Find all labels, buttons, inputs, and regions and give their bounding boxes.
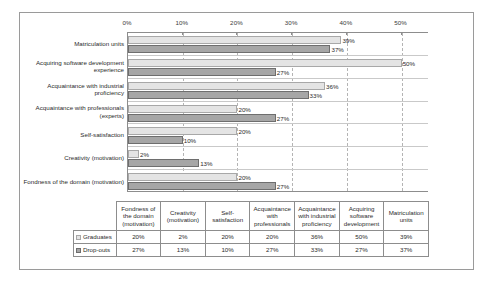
legend-item-graduates[interactable]: Graduates <box>74 231 117 244</box>
bar-graduates: 50% <box>128 59 402 67</box>
bar-value-label: 36% <box>326 82 338 89</box>
table-cell: 20% <box>116 231 161 244</box>
bar-chart: 0%10%20%30%40%50% Matriculation units39%… <box>20 13 475 199</box>
chart-category-row: Acquiring software development experienc… <box>128 56 428 79</box>
bar-value-label: 33% <box>310 91 322 98</box>
bar-drop-outs: 10% <box>128 136 183 144</box>
legend-swatch-icon <box>76 248 81 253</box>
bar-drop-outs: 27% <box>128 114 276 122</box>
bar-value-label: 10% <box>184 137 196 144</box>
bar-drop-outs: 27% <box>128 182 276 190</box>
x-axis-tick-label: 30% <box>285 19 298 26</box>
table-column-header: Acquiring software development <box>339 202 384 231</box>
category-label: Acquaintance with professionals (experts… <box>20 105 128 120</box>
table-row: Graduates20%2%20%20%36%50%39% <box>74 231 429 244</box>
x-axis-tick-label: 40% <box>340 19 353 26</box>
table-cell: 20% <box>205 231 250 244</box>
figure-frame: 0%10%20%30%40%50% Matriculation units39%… <box>19 12 474 270</box>
x-axis-tick-mark <box>346 32 347 35</box>
chart-category-row: Creativity (motivation)2%13% <box>128 147 428 170</box>
table-column-header: Matriculation units <box>384 202 429 231</box>
x-axis-tick-mark <box>236 32 237 35</box>
category-label: Acquaintance with industrial proficiency <box>20 82 128 97</box>
bar-value-label: 27% <box>277 114 289 121</box>
bar-drop-outs: 37% <box>128 45 330 53</box>
data-table: Fondness of the domain (motivation)Creat… <box>73 201 429 257</box>
bar-drop-outs: 13% <box>128 159 199 167</box>
bar-graduates: 20% <box>128 127 237 135</box>
table-header-row: Fondness of the domain (motivation)Creat… <box>74 202 429 231</box>
table-cell: 27% <box>339 244 384 257</box>
bar-graduates: 36% <box>128 82 325 90</box>
bar-drop-outs: 27% <box>128 68 276 76</box>
table-cell: 50% <box>339 231 384 244</box>
table-cell: 2% <box>161 231 206 244</box>
chart-category-row: Self-satisfaction20%10% <box>128 124 428 147</box>
bar-value-label: 2% <box>140 151 149 158</box>
bar-value-label: 20% <box>238 174 250 181</box>
x-axis-tick-mark <box>401 32 402 35</box>
category-label: Self-satisfaction <box>20 132 128 140</box>
table-cell: 20% <box>250 231 295 244</box>
table-row: Drop-outs27%13%10%27%33%27%37% <box>74 244 429 257</box>
table-cell: 27% <box>250 244 295 257</box>
bar-graduates: 20% <box>128 173 237 181</box>
category-label: Creativity (motivation) <box>20 154 128 162</box>
legend-label: Drop-outs <box>83 246 110 253</box>
chart-category-row: Acquaintance with professionals (experts… <box>128 102 428 125</box>
table-cell: 36% <box>295 231 340 244</box>
bar-value-label: 27% <box>277 183 289 190</box>
table-column-header: Creativity (motivation) <box>161 202 206 231</box>
bar-value-label: 37% <box>331 46 343 53</box>
x-axis-tick-labels: 0%10%20%30%40%50% <box>20 19 475 31</box>
table-cell: 33% <box>295 244 340 257</box>
bar-value-label: 50% <box>403 59 415 66</box>
legend-swatch-icon <box>76 235 81 240</box>
x-axis-tick-label: 20% <box>230 19 243 26</box>
category-label: Matriculation units <box>20 40 128 48</box>
bar-value-label: 20% <box>238 105 250 112</box>
table-column-header: Acquaintance with professionals <box>250 202 295 231</box>
x-axis-tick-mark <box>182 32 183 35</box>
table-cell: 27% <box>116 244 161 257</box>
bar-graduates: 2% <box>128 150 139 158</box>
bar-value-label: 13% <box>200 160 212 167</box>
plot-area: Matriculation units39%37%Acquiring softw… <box>127 32 428 192</box>
table-cell: 13% <box>161 244 206 257</box>
table-column-header: Acquaintance with industrial proficiency <box>295 202 340 231</box>
table-column-header: Fondness of the domain (motivation) <box>116 202 161 231</box>
bar-value-label: 20% <box>238 128 250 135</box>
category-label: Acquiring software development experienc… <box>20 59 128 74</box>
bar-drop-outs: 33% <box>128 91 309 99</box>
legend-label: Graduates <box>83 233 112 240</box>
bar-graduates: 39% <box>128 36 341 44</box>
legend-item-drop-outs[interactable]: Drop-outs <box>74 244 117 257</box>
category-label: Fondness of the domain (motivation) <box>20 178 128 186</box>
table-cell: 10% <box>205 244 250 257</box>
chart-category-row: Acquaintance with industrial proficiency… <box>128 79 428 102</box>
table-cell: 39% <box>384 231 429 244</box>
bar-graduates: 20% <box>128 105 237 113</box>
x-axis-tick-label: 0% <box>122 19 131 26</box>
table-corner-cell <box>74 202 117 231</box>
bar-value-label: 27% <box>277 68 289 75</box>
table-body: Graduates20%2%20%20%36%50%39%Drop-outs27… <box>74 231 429 257</box>
table-cell: 37% <box>384 244 429 257</box>
chart-category-row: Matriculation units39%37% <box>128 33 428 56</box>
table-column-header: Self-satisfaction <box>205 202 250 231</box>
chart-category-row: Fondness of the domain (motivation)20%27… <box>128 170 428 193</box>
x-axis-tick-label: 50% <box>394 19 407 26</box>
bar-value-label: 39% <box>342 37 354 44</box>
x-axis-tick-mark <box>127 32 128 35</box>
x-axis-tick-mark <box>291 32 292 35</box>
x-axis-tick-label: 10% <box>175 19 188 26</box>
